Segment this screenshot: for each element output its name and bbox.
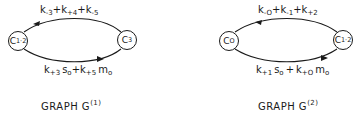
g2-top-edge-label: k-O+k-1+k+2 (258, 5, 318, 17)
rate-sub: +3 (50, 69, 60, 77)
plus: + (53, 4, 61, 15)
plus: + (286, 64, 294, 75)
var-sub: o (325, 69, 329, 77)
graph-title-text: GRAPH G (41, 101, 90, 112)
node-subscript: 1·2 (16, 37, 26, 45)
node-subscript: 3 (128, 36, 132, 44)
g1-node-c12: C1·2 (8, 31, 28, 51)
rate-sub: +5 (86, 69, 96, 77)
g1-bottom-edge (24, 49, 121, 62)
g2-node-c0: CO (219, 31, 239, 51)
rate-sub: +2 (307, 9, 317, 17)
g1-node-c3: C3 (117, 30, 137, 50)
rate-sub: +O (302, 69, 313, 77)
var: m (315, 64, 325, 75)
g2-title: GRAPH G(2) (258, 99, 319, 112)
graph-title-sup: (2) (307, 99, 318, 107)
var-sub: o (279, 69, 283, 77)
rate-sub: +4 (67, 9, 77, 17)
g1-bottom-edge-label: k+3 so+k+5 mo (44, 65, 112, 77)
node-subscript: 1·2 (341, 36, 351, 44)
g2-bottom-edge-label: k+1 so + k+O mo (256, 65, 329, 77)
graph-title-sup: (1) (90, 99, 101, 107)
rate-sub: -O (264, 9, 272, 17)
g1-bottom-arrow-icon (97, 56, 104, 62)
g1-title: GRAPH G(1) (41, 99, 102, 112)
plus: + (77, 4, 85, 15)
rate-sub: -5 (91, 9, 98, 17)
var-sub: o (108, 69, 112, 77)
g2-top-edge (235, 19, 337, 33)
rate-sub: +1 (262, 69, 272, 77)
node-subscript: O (230, 37, 235, 45)
plus: + (293, 4, 301, 15)
g2-node-c12: C1·2 (333, 30, 353, 50)
rate-sub: -3 (46, 9, 53, 17)
plus: + (72, 64, 80, 75)
g2-top-arrow-icon (255, 20, 262, 25)
var: m (98, 64, 108, 75)
g1-top-edge-label: k-3+k+4+k-5 (40, 5, 98, 17)
graph-title-text: GRAPH G (258, 101, 307, 112)
